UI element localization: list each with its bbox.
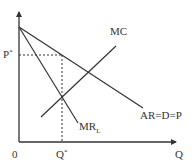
origin-label: 0 — [12, 148, 18, 160]
price-star-label: P* — [3, 48, 13, 60]
ar-label: AR=D=P — [140, 109, 182, 121]
mr-curve — [19, 27, 78, 123]
monopoly-diagram: P* MC MRL AR=D=P 0 Q* Q — [0, 0, 196, 164]
ar-demand-curve — [19, 27, 143, 108]
quantity-star-label: Q* — [56, 148, 68, 160]
mr-label: MRL — [79, 120, 100, 135]
x-axis-label: Q — [175, 148, 183, 160]
mc-label: MC — [110, 25, 127, 37]
